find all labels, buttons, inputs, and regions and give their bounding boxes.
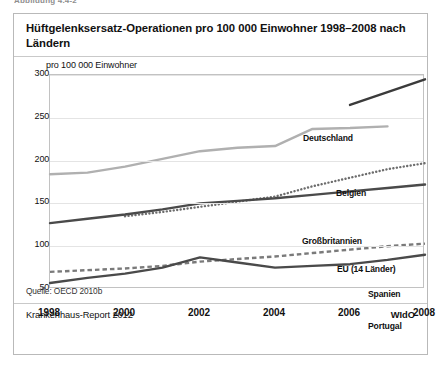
series-label-eu-14-l-nder: EU (14 Länder) (337, 264, 396, 274)
figure-title: Hüftgelenksersatz-Operationen pro 100 00… (14, 14, 427, 57)
y-axis-tick-label: 150 (23, 196, 49, 206)
y-axis-tick-label: 100 (23, 239, 49, 249)
plot-area (49, 74, 424, 288)
grid-line (50, 246, 423, 247)
y-axis-tick-label: 250 (23, 111, 49, 121)
figure-footer: Krankenhaus-Report 2012 WIdO (14, 303, 427, 328)
y-axis-tick-label: 300 (23, 68, 49, 78)
series-line-deutschland (350, 79, 425, 105)
footer-publisher: WIdO (391, 310, 415, 320)
grid-line (50, 118, 423, 119)
figure-page: Abbildung 4.4-2 Hüftgelenksersatz-Operat… (0, 0, 442, 368)
grid-line (50, 203, 423, 204)
series-label-deutschland: Deutschland (303, 133, 353, 143)
chart-area: pro 100 000 Einwohner 50100150200250300 … (14, 57, 427, 302)
above-figure-caption: Abbildung 4.4-2 (14, 0, 134, 8)
series-label-gro-britannien: Großbritannien (302, 236, 362, 246)
y-axis-unit-label: pro 100 000 Einwohner (46, 60, 137, 70)
source-note: Quelle: OECD 2010b (26, 286, 102, 296)
series-label-belgien: Belgien (336, 188, 366, 198)
footer-report-title: Krankenhaus-Report 2012 (26, 310, 133, 320)
y-axis-tick-label: 200 (23, 154, 49, 164)
series-label-spanien: Spanien (368, 289, 400, 299)
figure-container: Hüftgelenksersatz-Operationen pro 100 00… (13, 13, 428, 355)
series-lines (50, 75, 425, 289)
grid-line (50, 161, 423, 162)
grid-line (50, 75, 423, 76)
above-figure-caption-text: Abbildung 4.4-2 (14, 0, 134, 6)
